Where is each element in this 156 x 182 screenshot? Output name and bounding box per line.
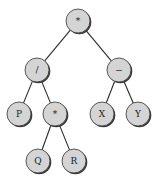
node-label: * bbox=[76, 16, 81, 26]
expression-tree-diagram: */−P*XYQR bbox=[0, 0, 156, 182]
edge-minus-x bbox=[106, 81, 114, 103]
edge-div-mul bbox=[42, 81, 51, 103]
tree-node-p: P bbox=[7, 102, 32, 127]
edge-mul-r bbox=[59, 125, 69, 150]
tree-node-r: R bbox=[62, 149, 87, 174]
tree-node-x: X bbox=[90, 102, 115, 127]
edge-root-div bbox=[45, 30, 71, 61]
node-label: X bbox=[99, 109, 106, 119]
node-label: P bbox=[16, 109, 22, 119]
node-label: Y bbox=[134, 109, 142, 119]
tree-node-minus: − bbox=[107, 58, 132, 83]
tree-edges bbox=[24, 30, 134, 150]
tree-node-q: Q bbox=[26, 149, 51, 174]
node-label: − bbox=[115, 65, 123, 75]
edge-mul-q bbox=[42, 125, 51, 149]
tree-node-div: / bbox=[25, 58, 50, 83]
tree-node-y: Y bbox=[126, 102, 151, 127]
tree-node-mul: * bbox=[43, 102, 68, 127]
node-label: Q bbox=[34, 156, 41, 166]
node-label: * bbox=[53, 109, 58, 119]
edge-minus-y bbox=[124, 81, 133, 103]
edge-div-p bbox=[24, 81, 33, 103]
node-label: R bbox=[71, 156, 78, 166]
edge-root-minus bbox=[86, 30, 112, 61]
